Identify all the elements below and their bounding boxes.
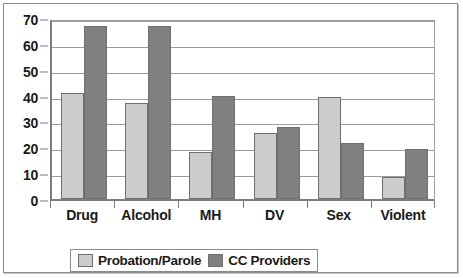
y-axis-tick-label: 20 [23, 142, 38, 156]
x-axis-category-label: DV [265, 207, 284, 223]
plot-area [50, 20, 435, 201]
plot-wrapper [50, 20, 435, 201]
x-axis-category-label: Drug [66, 207, 98, 223]
y-axis-tick-mark [40, 20, 48, 21]
y-axis-tick-label: 30 [23, 116, 38, 130]
y-axis-tick-label: 60 [23, 39, 38, 53]
bars-layer [52, 21, 434, 199]
bar [277, 127, 300, 199]
chart-legend: Probation/ParoleCC Providers [70, 249, 318, 272]
legend-swatch-probation-parole [78, 254, 93, 267]
bar-group [382, 21, 428, 199]
bar-group [318, 21, 364, 199]
bar-group [125, 21, 171, 199]
legend-swatch-cc-providers [208, 254, 223, 267]
bar-chart-figure: 010203040506070 DrugAlcoholMHDVSexViolen… [0, 0, 463, 278]
bar [61, 93, 84, 199]
bar [125, 103, 148, 199]
y-axis-tick-label: 10 [23, 168, 38, 182]
figure-frame: 010203040506070 DrugAlcoholMHDVSexViolen… [3, 3, 458, 273]
bar-group [189, 21, 235, 199]
bar [254, 133, 277, 199]
x-axis-category-label: Alcohol [121, 207, 171, 223]
y-axis-tick-label: 70 [23, 13, 38, 27]
legend-label: Probation/Parole [98, 253, 201, 268]
y-axis-tick-mark [40, 71, 48, 72]
bar [189, 152, 212, 199]
y-axis-tick-label: 40 [23, 91, 38, 105]
x-axis-labels: DrugAlcoholMHDVSexViolent [50, 207, 435, 231]
y-axis-tick-mark [40, 45, 48, 46]
bar [318, 97, 341, 199]
bar [148, 26, 171, 199]
bar-group [61, 21, 107, 199]
legend-label: CC Providers [228, 253, 310, 268]
y-axis-tick-mark [40, 97, 48, 98]
x-axis-category-label: Sex [327, 207, 351, 223]
bar [405, 149, 428, 199]
x-axis-category-label: MH [200, 207, 221, 223]
legend-item: Probation/Parole [78, 253, 201, 268]
bar [212, 96, 235, 199]
bar [341, 143, 364, 199]
bar [84, 26, 107, 199]
y-axis-tick-label: 50 [23, 65, 38, 79]
bar-group [254, 21, 300, 199]
y-axis-tick-mark [40, 201, 48, 202]
y-axis: 010203040506070 [4, 20, 48, 201]
y-axis-tick-mark [40, 123, 48, 124]
y-axis-tick-mark [40, 149, 48, 150]
bar [382, 177, 405, 199]
x-axis-category-label: Violent [380, 207, 425, 223]
y-axis-tick-mark [40, 175, 48, 176]
legend-item: CC Providers [208, 253, 310, 268]
y-axis-tick-label: 0 [31, 194, 39, 208]
